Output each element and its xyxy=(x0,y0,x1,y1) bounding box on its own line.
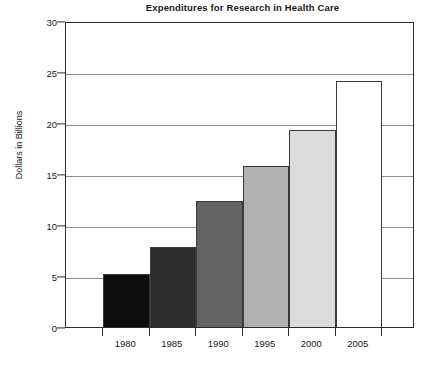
bar xyxy=(289,130,336,327)
bar xyxy=(150,247,197,327)
y-tick-mark xyxy=(57,72,65,73)
chart-title: Expenditures for Research in Health Care xyxy=(70,2,415,13)
y-tick-mark xyxy=(57,327,65,328)
x-tick-mark xyxy=(149,328,150,336)
y-tick-mark xyxy=(57,21,65,22)
x-tick-mark xyxy=(195,328,196,336)
bars-layer xyxy=(66,23,413,327)
plot-area xyxy=(65,22,414,328)
bar xyxy=(196,201,243,327)
y-tick-label: 0 xyxy=(27,323,57,334)
y-tick-mark xyxy=(57,174,65,175)
x-tick-label: 1995 xyxy=(242,338,288,349)
x-tick-label: 1985 xyxy=(149,338,195,349)
y-tick-label: 10 xyxy=(27,221,57,232)
x-tick-label: 2005 xyxy=(335,338,381,349)
x-tick-mark xyxy=(335,328,336,336)
y-tick-label: 30 xyxy=(27,17,57,28)
x-tick-label: 1980 xyxy=(102,338,148,349)
y-tick-label: 15 xyxy=(27,170,57,181)
bar xyxy=(103,274,150,327)
y-tick-mark xyxy=(57,123,65,124)
y-axis-title: Dollars in Billions xyxy=(14,80,24,210)
x-tick-label: 2000 xyxy=(288,338,334,349)
y-tick-mark xyxy=(57,225,65,226)
y-tick-label: 5 xyxy=(27,272,57,283)
bar-chart: Expenditures for Research in Health Care… xyxy=(0,0,428,367)
y-tick-label: 25 xyxy=(27,68,57,79)
bar xyxy=(243,166,290,327)
x-tick-mark xyxy=(381,328,382,336)
y-tick-label: 20 xyxy=(27,119,57,130)
x-tick-mark xyxy=(102,328,103,336)
y-tick-mark xyxy=(57,276,65,277)
bar xyxy=(336,81,383,327)
x-tick-mark xyxy=(242,328,243,336)
x-tick-label: 1990 xyxy=(195,338,241,349)
x-tick-mark xyxy=(288,328,289,336)
